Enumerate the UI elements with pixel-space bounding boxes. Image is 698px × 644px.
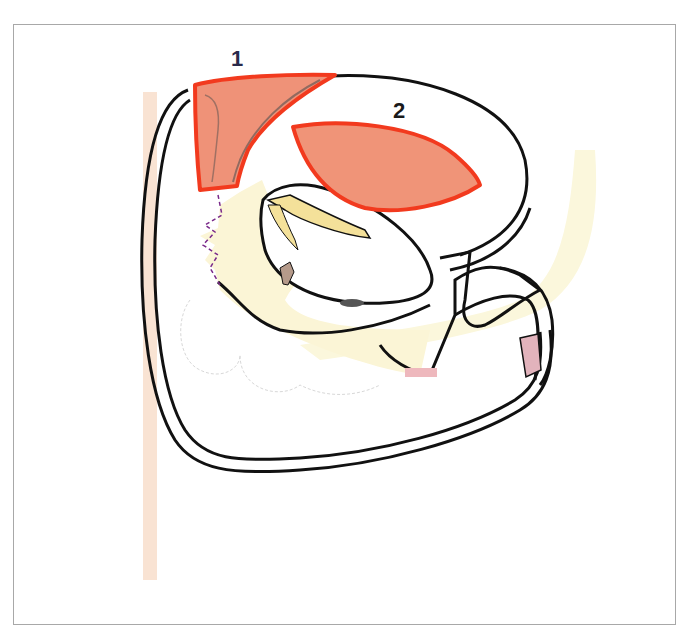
upper-arc-inner	[450, 208, 530, 270]
pink-patch-bottom	[405, 368, 437, 377]
label-1: 1	[231, 48, 243, 70]
dark-lens	[340, 299, 364, 307]
label-2: 2	[393, 100, 405, 122]
pink-patch-right	[520, 334, 541, 377]
anatomy-diagram	[0, 0, 698, 644]
